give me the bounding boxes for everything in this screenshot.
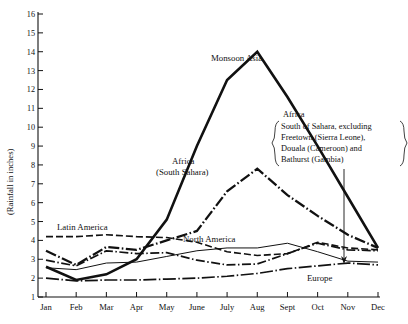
x-tick-label: Apr	[130, 302, 144, 312]
africa-south-sahara-label-line1: Africa	[172, 156, 195, 166]
africa-south-sahara-label-line2: (South Sahara)	[156, 167, 209, 177]
x-tick-label: Oct	[311, 302, 324, 312]
x-axis-ticks: JanFebMarAprMayJuneJulyAugSeptOctNovDec	[40, 292, 385, 312]
y-tick-label: 7	[31, 180, 35, 189]
callout-brace-left	[272, 121, 279, 166]
callout-line-4: Bathurst (Gambia)	[281, 155, 344, 164]
y-tick-label: 14	[27, 48, 35, 57]
y-tick-label: 1	[31, 293, 35, 302]
africa-excluding-note: Africa South of Sahara, excluding Freeto…	[272, 110, 407, 264]
x-tick-label: July	[220, 302, 235, 312]
y-tick-label: 8	[31, 161, 35, 170]
x-tick-label: Mar	[99, 302, 113, 312]
x-tick-label: May	[159, 302, 175, 312]
y-tick-label: 3	[31, 255, 35, 264]
x-tick-label: Sept	[280, 302, 296, 312]
x-tick-label: Aug	[250, 302, 266, 312]
series-annotations: Monsoon AsiaAfrica(South Sahara)Latin Am…	[57, 53, 332, 283]
latin-america-label: Latin America	[57, 222, 108, 232]
monsoon-asia-label: Monsoon Asia	[211, 53, 262, 63]
y-tick-label: 11	[27, 104, 35, 113]
y-tick-label: 16	[27, 10, 35, 19]
y-tick-label: 13	[27, 67, 35, 76]
y-tick-label: 9	[31, 142, 35, 151]
y-tick-label: 5	[31, 218, 35, 227]
y-tick-label: 6	[31, 199, 35, 208]
callout-line-1: South of Sahara, excluding	[281, 122, 373, 131]
callout-line-3: Douala (Cameroon) and	[281, 144, 363, 153]
x-tick-label: Feb	[70, 302, 83, 312]
series-layer	[46, 52, 378, 281]
x-tick-label: Jan	[40, 302, 52, 312]
y-axis-title: (Rainfall in inches)	[5, 149, 15, 215]
x-tick-label: Nov	[340, 302, 356, 312]
y-tick-label: 12	[27, 85, 35, 94]
y-tick-label: 10	[27, 123, 35, 132]
series-line-africa-south-sahara	[46, 169, 378, 265]
x-tick-label: June	[189, 302, 205, 312]
y-tick-label: 15	[27, 29, 35, 38]
callout-heading: Africa	[283, 110, 305, 119]
chart-canvas: 12345678910111213141516 JanFebMarAprMayJ…	[0, 0, 408, 324]
y-tick-label: 2	[31, 274, 35, 283]
rainfall-line-chart: 12345678910111213141516 JanFebMarAprMayJ…	[0, 0, 408, 324]
north-america-label: North America	[183, 234, 236, 244]
y-tick-label: 4	[31, 236, 35, 245]
callout-brace-right	[400, 121, 407, 166]
europe-label: Europe	[307, 273, 332, 283]
callout-line-2: Freetown (Sierra Leone),	[281, 133, 365, 142]
x-tick-label: Dec	[371, 302, 385, 312]
y-axis-ticks: 12345678910111213141516	[27, 10, 43, 302]
